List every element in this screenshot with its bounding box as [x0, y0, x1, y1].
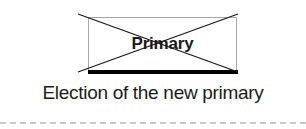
diagram-canvas: Primary Election of the new primary [0, 0, 306, 129]
diagram-caption: Election of the new primary [0, 82, 306, 104]
strike-through-x-icon [74, 10, 242, 76]
crossed-out-node-group: Primary [74, 10, 242, 76]
bottom-dashed-divider [0, 122, 306, 124]
